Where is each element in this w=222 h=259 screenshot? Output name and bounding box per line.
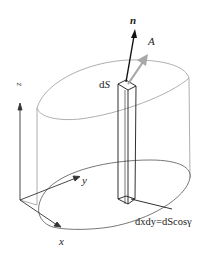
prism-column xyxy=(118,80,172,209)
x-axis-arrowhead xyxy=(54,222,61,227)
z-axis-label: z xyxy=(13,82,23,87)
coordinate-axes xyxy=(18,103,80,227)
bottom-back-edge xyxy=(20,200,37,205)
x-axis xyxy=(20,200,57,225)
z-axis-arrowhead xyxy=(18,103,22,110)
projection-bottom-face xyxy=(118,196,135,204)
y-axis-label: y xyxy=(81,174,87,186)
vector-a-arrow xyxy=(128,54,148,84)
formula-leader-line xyxy=(131,199,172,209)
projection-formula-label: dxdy=dScosγ xyxy=(135,216,192,227)
top-cap-upper-arc xyxy=(37,60,189,108)
surface-element-s: S xyxy=(105,78,111,90)
x-axis-label: x xyxy=(58,235,64,247)
normal-label: n xyxy=(130,14,136,26)
top-cap-lower-arc xyxy=(37,78,189,120)
surface-element-label: dS xyxy=(99,78,111,90)
surface-integral-diagram: n A dS z y x dxdy=dScosγ xyxy=(0,0,222,259)
right-side-edge xyxy=(189,78,190,178)
surface-element-top-face xyxy=(118,80,136,90)
vector-label: A xyxy=(147,35,155,47)
y-axis-arrowhead xyxy=(73,176,80,181)
y-axis xyxy=(20,178,76,200)
